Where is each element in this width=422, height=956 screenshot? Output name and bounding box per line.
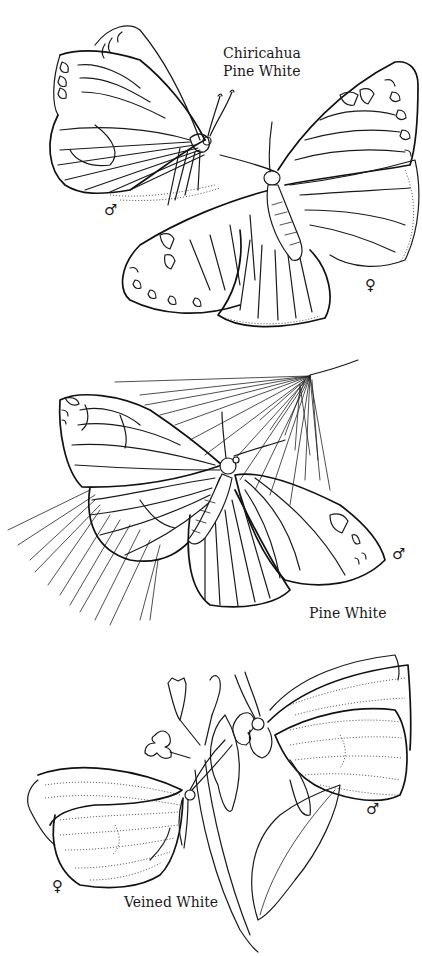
line-art-drawing bbox=[0, 0, 422, 956]
male-symbol-icon: ♂ bbox=[366, 802, 379, 817]
male-symbol-icon: ♂ bbox=[104, 203, 117, 218]
veined-white-title: Veined White bbox=[124, 893, 218, 911]
butterfly-illustration-page: Chiricahua Pine White ♂ ♀ Pine White ♂ V… bbox=[0, 0, 422, 956]
male-symbol-icon: ♂ bbox=[392, 547, 405, 562]
chiricahua-title-line-1: Chiricahua bbox=[223, 44, 301, 62]
chiricahua-title-line-2: Pine White bbox=[223, 62, 300, 80]
chiricahua-male-butterfly-drawing bbox=[50, 26, 234, 205]
female-symbol-icon: ♀ bbox=[52, 879, 63, 894]
pine-white-male-butterfly-drawing bbox=[60, 395, 385, 607]
female-symbol-icon: ♀ bbox=[365, 278, 376, 293]
pine-white-title: Pine White bbox=[309, 604, 386, 622]
